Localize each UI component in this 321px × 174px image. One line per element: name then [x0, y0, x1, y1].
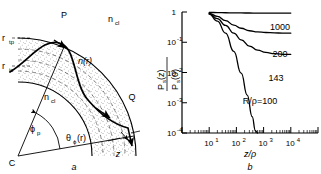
label-n-cl-outer-sub: cl	[115, 20, 119, 26]
curve-1000	[209, 12, 291, 13]
label-r-ic: r ic	[2, 61, 13, 73]
label-phi-p-sub: p	[37, 130, 41, 136]
label-n-cl-outer-base: n	[108, 14, 113, 24]
panel-a-ray-diagram: P Q C z r tp r ic n cl n cl	[0, 0, 160, 174]
label-r-tp: r tp	[2, 33, 15, 45]
label-r-tp-sub: tp	[9, 39, 15, 45]
y-label-den-arg: (0)	[170, 69, 180, 80]
label-phi-p-base: ϕ	[30, 124, 35, 134]
panel-letter-b: b	[247, 162, 252, 172]
label-r-tp-base: r	[2, 33, 5, 43]
x-tick-exp-3: 4	[297, 137, 301, 143]
figure-container: P Q C z r tp r ic n cl n cl	[0, 0, 321, 174]
x-tick-labels: 101102103104	[204, 137, 301, 148]
curve-label-143: 143	[268, 73, 283, 83]
panel-letter-a: a	[71, 162, 76, 172]
x-tick-label-2: 103	[259, 137, 274, 148]
x-tick-label-3: 104	[286, 137, 301, 148]
x-tick-base-0: 10	[204, 139, 213, 148]
x-tick-base-1: 10	[231, 139, 240, 148]
label-n-cl-inner-base: n	[44, 92, 49, 102]
y-tick-label-1: 10-1	[167, 36, 183, 47]
label-phi-p: ϕ p	[30, 124, 41, 136]
y-tick-exp-1: -1	[177, 36, 183, 42]
x-tick-base-3: 10	[286, 139, 295, 148]
curve-label-R/rho=100: R/ρ=100	[243, 96, 277, 106]
curve-label-1000: 1000	[270, 22, 290, 32]
label-r-ic-sub: ic	[9, 67, 13, 73]
panel-b-loglog-plot: 110-110-210-310-4 101102103104 100020014…	[160, 0, 321, 174]
label-theta-phi-r: θ ϕ (r)	[66, 133, 86, 145]
x-tick-exp-2: 3	[270, 137, 274, 143]
label-r-ic-base: r	[2, 61, 5, 71]
y-tick-base-4: 10	[167, 129, 176, 138]
label-point-p: P	[61, 10, 67, 20]
y-tick-base-3: 10	[167, 99, 176, 108]
label-point-c: C	[9, 158, 16, 168]
label-n-cl-inner: n cl	[44, 92, 55, 104]
y-tick-marks	[182, 12, 187, 133]
curve-label-200: 200	[272, 49, 287, 59]
label-n-cl-outer: n cl	[108, 14, 119, 26]
y-tick-label-4: 10-4	[167, 127, 183, 138]
x-tick-exp-0: 1	[215, 137, 219, 143]
y-tick-label-0: 1	[172, 8, 177, 17]
x-tick-base-2: 10	[259, 139, 268, 148]
x-tick-exp-1: 2	[242, 137, 246, 143]
label-theta-base: θ	[66, 133, 71, 143]
x-axis-label: z/ρ	[243, 149, 256, 159]
y-tick-base-0: 1	[172, 8, 177, 17]
y-tick-exp-3: -3	[177, 97, 183, 103]
y-label-num-base: P	[156, 84, 166, 90]
x-tick-label-0: 101	[204, 137, 219, 148]
x-tick-marks	[182, 127, 318, 133]
label-axis-z: z	[115, 149, 121, 159]
ray-diagram-svg: P Q C z r tp r ic n cl n cl	[0, 0, 160, 174]
y-tick-exp-4: -4	[177, 127, 183, 133]
label-index-profile: n(r)	[78, 56, 92, 66]
label-point-q: Q	[128, 92, 135, 102]
plot-svg: 110-110-210-310-4 101102103104 100020014…	[160, 0, 321, 174]
y-tick-base-1: 10	[167, 38, 176, 47]
curve-labels: 1000200143R/ρ=100	[243, 22, 290, 106]
curve-R/rho=100	[209, 14, 257, 133]
x-tick-label-1: 102	[231, 137, 246, 148]
y-tick-label-3: 10-3	[167, 97, 183, 108]
label-theta-arg: (r)	[77, 133, 86, 143]
y-label-num-arg: (z)	[156, 70, 166, 81]
y-label-den-base: P	[170, 84, 180, 90]
label-n-cl-inner-sub: cl	[51, 98, 55, 104]
